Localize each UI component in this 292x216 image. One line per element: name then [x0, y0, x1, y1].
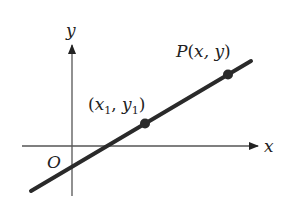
point-P-label: P(x, y) [175, 41, 231, 61]
point-x1-y1-label: (x1, y1) [88, 94, 145, 117]
point-P [223, 70, 233, 80]
origin-label: O [47, 152, 61, 172]
x-axis-label: x [264, 136, 274, 156]
point-x1-y1 [140, 119, 150, 129]
y-axis-label: y [65, 20, 76, 40]
coordinate-diagram: y x O (x1, y1) P(x, y) [0, 0, 292, 216]
